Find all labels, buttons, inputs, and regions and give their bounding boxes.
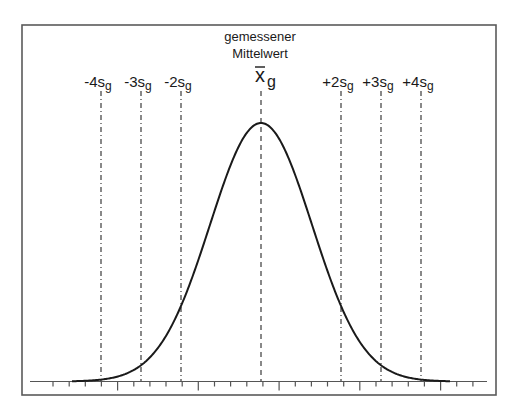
mean-label: x g [255, 64, 276, 90]
normal-distribution-diagram: gemessener Mittelwert x g -4sg-3sg-2sg+2… [0, 0, 517, 418]
sigma-label-plus-2s: +2sg [322, 73, 353, 93]
title-line-1: gemessener [224, 29, 296, 44]
mean-symbol: x [255, 64, 265, 86]
mean-subscript: g [267, 73, 276, 90]
title-line-2: Mittelwert [232, 46, 288, 61]
sigma-label-minus-3s: -3sg [124, 73, 152, 93]
sigma-label-minus-4s: -4sg [84, 73, 112, 93]
x-axis-ticks [53, 382, 473, 391]
sigma-label-plus-3s: +3sg [362, 73, 393, 93]
sigma-label-minus-2s: -2sg [164, 73, 192, 93]
gaussian-curve [72, 123, 450, 381]
sigma-label-plus-4s: +4sg [402, 73, 433, 93]
